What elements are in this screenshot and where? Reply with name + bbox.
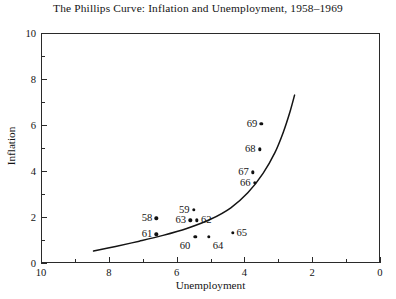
x-tick-label-0: 0	[377, 267, 382, 278]
y-tick-label-0: 0	[19, 258, 36, 269]
y-tick-major-4	[41, 171, 47, 172]
data-point-label-66: 66	[240, 177, 251, 188]
x-tick-minor-1	[346, 259, 347, 263]
x-axis-title: Unemployment	[41, 279, 380, 291]
y-tick-label-8: 8	[19, 74, 36, 85]
y-tick-minor-7	[41, 102, 45, 103]
y-tick-major-6	[41, 125, 47, 126]
y-axis-title: Inflation	[5, 111, 17, 181]
y-tick-label-10: 10	[19, 28, 36, 39]
y-tick-major-10	[41, 33, 47, 34]
y-tick-label-6: 6	[19, 120, 36, 131]
phillips-curve-line	[41, 33, 380, 263]
data-point-label-62: 62	[201, 215, 212, 226]
x-tick-major-6	[177, 257, 178, 263]
x-tick-minor-7	[143, 259, 144, 263]
data-point-label-67: 67	[238, 167, 249, 178]
x-tick-label-8: 8	[106, 267, 111, 278]
x-tick-label-4: 4	[242, 267, 247, 278]
data-point-label-65: 65	[237, 228, 248, 239]
x-tick-minor-9	[75, 259, 76, 263]
y-tick-minor-3	[41, 194, 45, 195]
x-tick-minor-3	[278, 259, 279, 263]
chart-title: The Phillips Curve: Inflation and Unempl…	[0, 2, 396, 14]
y-tick-minor-1	[41, 240, 45, 241]
data-point-label-61: 61	[142, 229, 153, 240]
data-point-label-58: 58	[142, 213, 153, 224]
x-tick-label-6: 6	[174, 267, 179, 278]
x-tick-major-2	[312, 257, 313, 263]
data-point-label-69: 69	[247, 119, 258, 130]
y-tick-major-0	[41, 263, 47, 264]
y-tick-minor-9	[41, 56, 45, 57]
data-point-label-68: 68	[245, 144, 256, 155]
x-tick-label-10: 10	[36, 267, 47, 278]
x-tick-major-4	[244, 257, 245, 263]
chart-container: The Phillips Curve: Inflation and Unempl…	[0, 0, 396, 299]
x-tick-major-8	[109, 257, 110, 263]
y-tick-major-2	[41, 217, 47, 218]
y-tick-minor-5	[41, 148, 45, 149]
y-tick-label-4: 4	[19, 166, 36, 177]
x-tick-label-2: 2	[310, 267, 315, 278]
y-tick-major-8	[41, 79, 47, 80]
data-point-label-64: 64	[213, 240, 224, 251]
x-tick-minor-5	[211, 259, 212, 263]
plot-area: 586159636260646566676869	[41, 33, 380, 263]
y-tick-label-2: 2	[19, 212, 36, 223]
x-tick-major-0	[380, 257, 381, 263]
data-point-label-60: 60	[180, 240, 191, 251]
data-point-label-63: 63	[176, 215, 187, 226]
